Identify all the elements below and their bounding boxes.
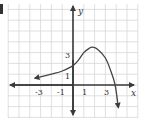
y-axis-label: y (77, 6, 84, 16)
x-axis-label: x (131, 88, 136, 98)
y-tick-1: 1 (65, 72, 70, 81)
y-tick-3: 3 (65, 51, 70, 60)
x-tick-1: 1 (82, 88, 87, 97)
x-tick-3: 3 (104, 88, 109, 97)
function-graph: y x -3 -1 1 3 1 3 (0, 0, 144, 124)
x-tick-neg3: -3 (35, 88, 43, 97)
x-tick-neg1: -1 (57, 88, 65, 97)
function-curve (38, 47, 118, 108)
